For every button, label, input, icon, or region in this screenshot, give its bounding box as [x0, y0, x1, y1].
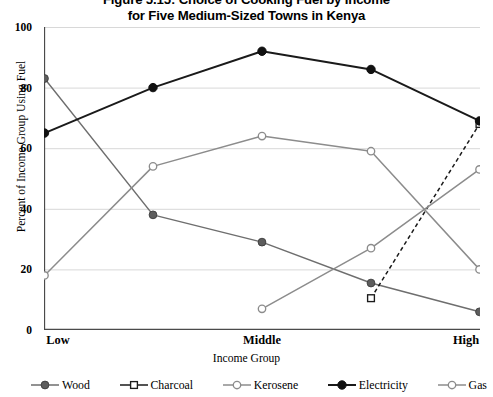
- legend-label-gas: Gas: [469, 378, 487, 393]
- marker-charcoal-3: [368, 295, 375, 302]
- marker-electricity-3: [367, 65, 375, 73]
- legend-label-electricity: Electricity: [359, 378, 408, 393]
- marker-kerosene-3: [367, 148, 374, 155]
- legend-marker-wood-icon: [30, 378, 60, 392]
- chart-title-line-2: for Five Medium-Sized Towns in Kenya: [0, 8, 493, 24]
- marker-electricity-1: [149, 83, 157, 91]
- marker-wood-4: [476, 308, 480, 316]
- line-wood: [45, 79, 480, 312]
- legend-marker-kerosene-icon: [222, 378, 252, 392]
- series-kerosene: [44, 132, 480, 279]
- legend-item-electricity[interactable]: Electricity: [327, 378, 408, 393]
- marker-wood-3: [367, 279, 375, 287]
- y-tick-label-20: 20: [21, 263, 33, 275]
- y-tick-label-0: 0: [26, 324, 32, 336]
- plot-area: [44, 27, 480, 330]
- marker-wood-2: [258, 238, 266, 246]
- plot-svg: [44, 27, 480, 330]
- legend-marker-electricity-icon: [327, 378, 357, 392]
- legend-item-gas[interactable]: Gas: [437, 378, 487, 393]
- chart-title-line-1: Figure 5.15: Choice of Cooking Fuel by I…: [0, 0, 493, 8]
- marker-wood-0: [44, 75, 48, 83]
- legend-label-kerosene: Kerosene: [254, 378, 299, 393]
- y-tick-label-60: 60: [21, 142, 33, 154]
- marker-kerosene-0: [44, 272, 48, 279]
- marker-kerosene-2: [258, 132, 265, 139]
- y-tick-label-80: 80: [21, 82, 33, 94]
- marker-electricity-0: [44, 129, 49, 137]
- x-tick-label-low: Low: [46, 333, 69, 348]
- marker-electricity-2: [258, 47, 266, 55]
- series-electricity: [44, 47, 480, 137]
- marker-gas-2: [258, 305, 265, 312]
- chart-title: Figure 5.15: Choice of Cooking Fuel by I…: [0, 0, 493, 23]
- series-charcoal: [368, 121, 480, 302]
- legend-item-kerosene[interactable]: Kerosene: [222, 378, 299, 393]
- line-electricity: [45, 51, 480, 133]
- legend-item-charcoal[interactable]: Charcoal: [119, 378, 194, 393]
- x-tick-label-high: High: [453, 333, 479, 348]
- marker-legend-kerosene-0: [233, 381, 240, 388]
- line-kerosene: [45, 136, 480, 275]
- legend-label-wood: Wood: [62, 378, 90, 393]
- marker-gas-4: [476, 166, 480, 173]
- y-tick-label-100: 100: [15, 21, 32, 33]
- marker-wood-1: [149, 211, 157, 219]
- series-gas: [258, 166, 480, 313]
- legend-marker-gas-icon: [437, 378, 467, 392]
- series-wood: [44, 75, 480, 316]
- marker-kerosene-1: [149, 163, 156, 170]
- marker-kerosene-4: [476, 266, 480, 273]
- marker-electricity-4: [475, 117, 480, 125]
- figure-root: Figure 5.15: Choice of Cooking Fuel by I…: [0, 0, 493, 397]
- marker-legend-gas-0: [448, 381, 455, 388]
- x-axis-tick-labels: LowMiddleHigh: [44, 333, 480, 351]
- legend-marker-charcoal-icon: [119, 378, 149, 392]
- line-gas: [262, 169, 480, 308]
- y-tick-label-40: 40: [21, 203, 33, 215]
- y-axis-tick-labels: 020406080100: [0, 27, 40, 330]
- x-tick-label-middle: Middle: [243, 333, 281, 348]
- marker-legend-electricity-0: [338, 381, 346, 389]
- marker-legend-wood-0: [41, 381, 49, 389]
- chart-legend: WoodCharcoalKeroseneElectricityGas: [30, 375, 487, 395]
- legend-label-charcoal: Charcoal: [151, 378, 194, 393]
- marker-legend-charcoal-0: [130, 382, 137, 389]
- marker-gas-3: [367, 244, 374, 251]
- legend-item-wood[interactable]: Wood: [30, 378, 90, 393]
- x-axis-title: Income Group: [0, 352, 493, 365]
